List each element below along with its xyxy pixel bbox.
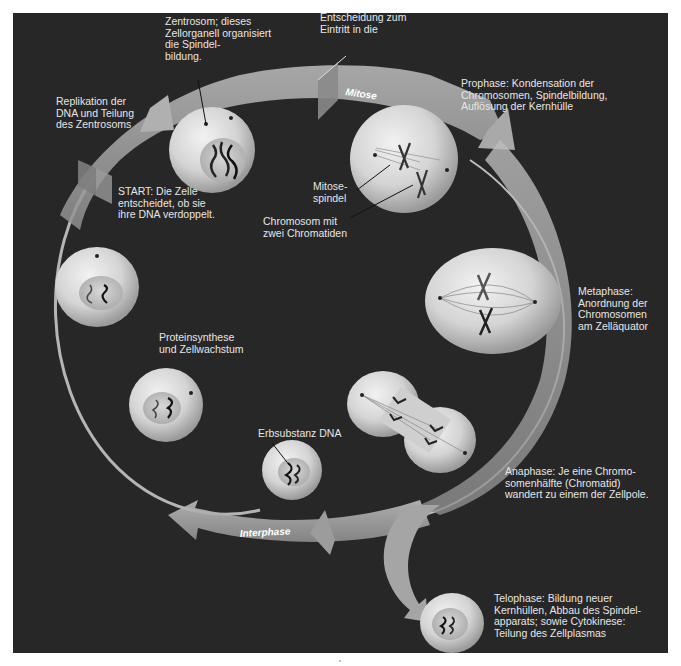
cell-dna	[262, 440, 322, 500]
interphase-arrow	[168, 500, 440, 622]
page-mark	[339, 660, 341, 662]
label-metaphase: Metaphase: Anordnung der Chromosomen am …	[578, 286, 648, 332]
cell-centrosome	[169, 107, 255, 193]
cell-metaphase	[425, 248, 561, 354]
cell-telophase	[420, 593, 484, 653]
cell-prophase	[350, 105, 458, 213]
label-centrosome: Zentrosom; dieses Zellorganell organisie…	[165, 16, 271, 62]
cell-growth	[129, 368, 203, 442]
label-telophase: Telophase: Bildung neuer Kernhüllen, Abb…	[494, 593, 641, 639]
label-chromosome: Chromosom mit zwei Chromatiden	[263, 216, 347, 239]
label-prophase: Prophase: Kondensation der Chromosomen, …	[461, 78, 608, 113]
label-anaphase: Anaphase: Je eine Chromo- somenhälfte (C…	[505, 466, 649, 501]
label-dna: Erbsubstanz DNA	[258, 428, 341, 440]
cell-interphase-left	[55, 247, 139, 327]
label-start: START: Die Zelle entscheidet, ob sie ihr…	[118, 186, 215, 221]
label-protein-synthesis: Proteinsynthese und Zellwachstum	[159, 332, 244, 355]
label-replication: Replikation der DNA und Teilung des Zent…	[56, 96, 134, 131]
label-mitosis-entry: Entscheidung zum Eintritt in die	[320, 12, 406, 35]
cell-anaphase	[347, 371, 476, 473]
label-spindle: Mitose- spindel	[313, 181, 347, 204]
